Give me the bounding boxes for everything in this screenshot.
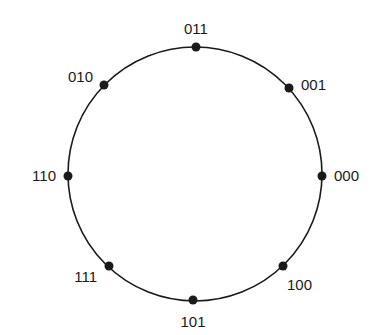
state-node-100: 100 (279, 262, 313, 294)
node-label: 001 (301, 76, 326, 93)
state-node-110: 110 (32, 167, 72, 184)
node-dot (105, 262, 114, 271)
state-node-010: 010 (68, 68, 109, 90)
node-label: 111 (74, 268, 97, 285)
state-node-000: 000 (318, 167, 360, 184)
state-node-111: 111 (74, 262, 113, 286)
node-dot (189, 296, 198, 305)
node-label: 011 (184, 20, 208, 37)
node-label: 010 (68, 68, 93, 85)
node-dot (100, 81, 109, 90)
state-node-001: 001 (285, 76, 327, 93)
node-dot (279, 262, 288, 271)
node-dot (64, 172, 73, 181)
node-group: 000001011010110111101100 (32, 20, 359, 330)
node-dot (192, 43, 201, 52)
node-label: 101 (180, 313, 205, 330)
gray-code-ring-diagram: 000001011010110111101100 (0, 0, 383, 335)
node-dot (318, 172, 327, 181)
node-label: 100 (287, 276, 312, 293)
node-label: 000 (334, 167, 359, 184)
node-label: 110 (32, 167, 56, 184)
node-dot (285, 84, 294, 93)
